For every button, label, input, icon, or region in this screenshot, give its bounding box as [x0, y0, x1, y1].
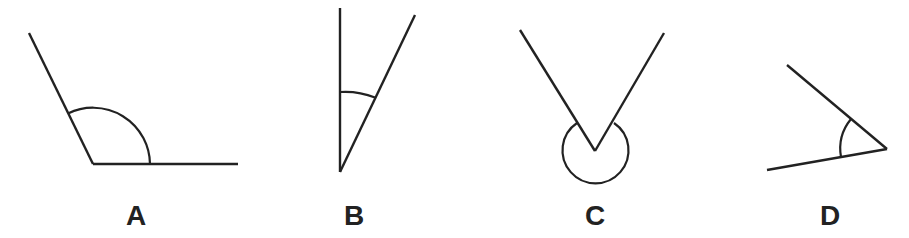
angle-c-arc [563, 123, 629, 183]
angle-c-label: C [585, 200, 605, 231]
angle-b-arc [340, 92, 375, 98]
angle-b-label: B [344, 200, 364, 231]
angle-c-arm-1 [520, 30, 595, 151]
angle-a: A [29, 33, 238, 231]
angle-d-arm-2 [767, 149, 887, 170]
angle-a-arm-1 [29, 33, 93, 164]
angle-c-arm-2 [595, 33, 664, 151]
angle-b-arm-2 [340, 15, 415, 172]
angle-d: D [767, 65, 887, 231]
angle-d-arm-1 [787, 65, 887, 149]
angle-c: C [520, 30, 664, 231]
angle-d-label: D [820, 200, 840, 231]
angle-a-label: A [126, 200, 146, 231]
angle-d-arc [840, 119, 851, 157]
angles-diagram: A B C D [0, 0, 909, 238]
angle-b: B [340, 8, 415, 231]
